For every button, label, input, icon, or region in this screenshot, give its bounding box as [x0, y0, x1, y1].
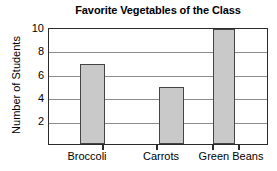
x-label-carrots: Carrots [134, 150, 188, 163]
bar-broccoli [80, 64, 105, 145]
y-tick-label-2: 2 [24, 116, 44, 127]
bar-green-beans [213, 29, 235, 144]
y-tick-label-4: 4 [24, 93, 44, 104]
y-tick-label-8: 8 [24, 46, 44, 57]
y-axis-title: Number of Students [10, 25, 22, 145]
chart-title: Favorite Vegetables of the Class [48, 4, 268, 17]
y-axis-tick-labels: 10 8 6 4 2 [22, 0, 44, 171]
x-label-green-beans: Green Beans [191, 150, 271, 163]
plot-area [48, 28, 268, 145]
x-label-broccoli: Broccoli [57, 150, 117, 163]
bar-chart: Favorite Vegetables of the Class Number … [0, 0, 277, 171]
y-tick-label-6: 6 [24, 70, 44, 81]
y-tick-label-10: 10 [24, 23, 44, 34]
bar-carrots [159, 87, 184, 145]
